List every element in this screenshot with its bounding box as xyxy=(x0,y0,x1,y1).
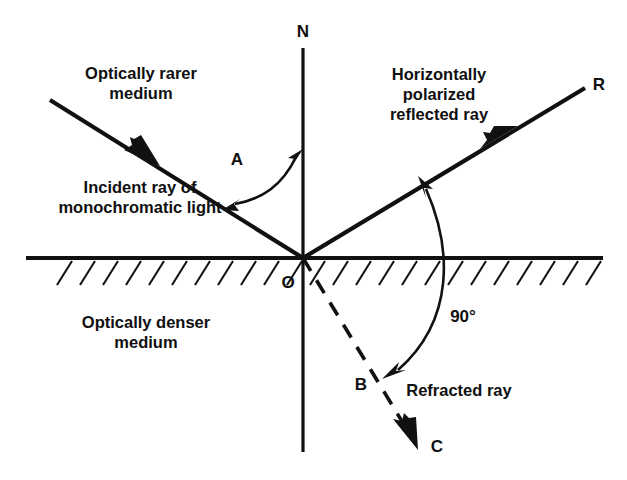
label-reflected-ray-line2: polarized xyxy=(403,85,475,103)
label-angle-90: 90° xyxy=(450,307,476,326)
label-incident-ray-line1: Incident ray of xyxy=(84,178,197,196)
label-angle-incidence: A xyxy=(231,150,243,169)
angle-a-arrowhead-top xyxy=(288,149,303,166)
angle-a-arrowhead-bottom xyxy=(222,199,240,211)
label-denser-medium-line2: medium xyxy=(114,333,177,351)
angle-a-arc xyxy=(235,157,296,204)
label-refracted-end: C xyxy=(431,437,443,456)
label-reflected-ray-line1: Horizontally xyxy=(392,65,487,83)
physics-diagram: N R O B C A 90° Optically rarer medium I… xyxy=(0,0,627,480)
refracted-ray-arrowhead xyxy=(393,413,418,450)
diagram-canvas: N R O B C A 90° Optically rarer medium I… xyxy=(0,0,627,480)
label-origin: O xyxy=(281,273,294,292)
hatching-group xyxy=(57,261,601,285)
label-reflected-end: R xyxy=(593,75,605,94)
label-incident-ray-line2: monochromatic light xyxy=(58,198,222,216)
label-rarer-medium-line1: Optically rarer xyxy=(85,64,197,82)
incident-ray-arrowhead xyxy=(124,135,160,166)
label-denser-medium-line1: Optically denser xyxy=(82,313,211,331)
label-refracted-ray: Refracted ray xyxy=(406,381,512,399)
label-rarer-medium-line2: medium xyxy=(109,84,172,102)
label-refraction-point: B xyxy=(355,375,367,394)
label-normal: N xyxy=(297,22,309,41)
label-reflected-ray-line3: reflected ray xyxy=(390,105,489,123)
